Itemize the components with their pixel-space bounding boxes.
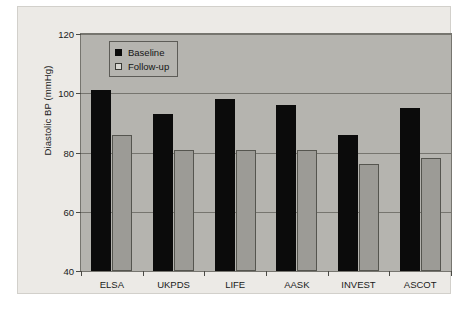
x-tick-mark [81, 271, 82, 276]
x-tick-mark [266, 271, 267, 276]
x-tick-label-ukpds: UKPDS [157, 279, 190, 290]
chart-legend: BaselineFollow-up [109, 41, 178, 77]
legend-label: Baseline [128, 47, 164, 58]
bar-life-baseline [215, 99, 235, 271]
bar-elsa-baseline [91, 90, 111, 271]
bar-invest-follow-up [359, 164, 379, 271]
chart-figure: Diastolic BP (mmHg) 406080100120 ELSAUKP… [0, 0, 468, 311]
x-tick-label-invest: INVEST [341, 279, 375, 290]
legend-swatch-icon [115, 49, 122, 56]
y-tick-label: 60 [63, 206, 74, 217]
plot-area: 406080100120 ELSAUKPDSLIFEAASKINVESTASCO… [80, 33, 452, 272]
x-tick-mark [143, 271, 144, 276]
legend-item-follow-up: Follow-up [115, 59, 169, 73]
legend-swatch-icon [115, 63, 122, 70]
bar-aask-follow-up [297, 150, 317, 271]
bar-aask-baseline [276, 105, 296, 271]
legend-item-baseline: Baseline [115, 45, 169, 59]
x-tick-mark [328, 271, 329, 276]
y-axis-title: Diastolic BP (mmHg) [42, 36, 53, 186]
bar-invest-baseline [338, 135, 358, 271]
y-tick-label: 80 [63, 147, 74, 158]
bar-ukpds-follow-up [174, 150, 194, 271]
y-tick-label: 100 [58, 88, 74, 99]
bar-ascot-baseline [400, 108, 420, 271]
x-tick-label-aask: AASK [284, 279, 309, 290]
bar-ukpds-baseline [153, 114, 173, 271]
legend-label: Follow-up [128, 61, 169, 72]
bar-elsa-follow-up [112, 135, 132, 271]
x-tick-mark [451, 271, 452, 276]
y-tick-label: 40 [63, 266, 74, 277]
x-tick-label-life: LIFE [225, 279, 245, 290]
x-tick-mark [204, 271, 205, 276]
y-tick-label: 120 [58, 29, 74, 40]
x-tick-label-ascot: ASCOT [404, 279, 437, 290]
bar-life-follow-up [236, 150, 256, 271]
x-tick-mark [389, 271, 390, 276]
chart-panel: Diastolic BP (mmHg) 406080100120 ELSAUKP… [17, 6, 451, 294]
bar-ascot-follow-up [421, 158, 441, 271]
x-tick-label-elsa: ELSA [100, 279, 124, 290]
